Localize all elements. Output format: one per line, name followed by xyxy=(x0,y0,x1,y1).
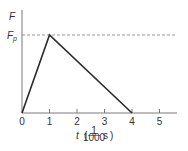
svg-text:): ) xyxy=(110,130,113,141)
x-tick-label: 0 xyxy=(19,116,25,127)
x-tick-label: 2 xyxy=(74,116,80,127)
y-axis-label: F xyxy=(9,11,16,22)
peak-force-label: Fp xyxy=(7,30,17,43)
x-tick-label: 1 xyxy=(47,116,53,127)
svg-text:s: s xyxy=(103,130,108,141)
x-tick-label: 3 xyxy=(102,116,108,127)
force-series-line xyxy=(22,35,132,113)
x-ticks xyxy=(50,109,160,113)
x-tick-label: 4 xyxy=(129,116,135,127)
x-tick-label: 5 xyxy=(157,116,163,127)
force-time-chart: 0 1 2 3 4 5 F Fp t ( 1 1000 s ) xyxy=(0,0,188,151)
svg-text:t: t xyxy=(76,130,80,141)
x-axis-label: t ( 1 1000 s ) xyxy=(76,125,113,143)
